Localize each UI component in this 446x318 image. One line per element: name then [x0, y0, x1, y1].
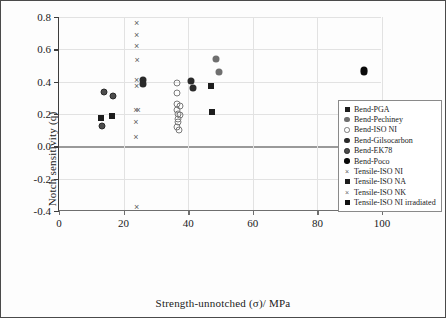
data-point	[188, 77, 195, 84]
gridline-horizontal	[59, 114, 381, 115]
data-point: ×	[133, 82, 141, 90]
chart-legend[interactable]: Bend-PGABend-PechineyBend-ISO NIBend-Gil…	[338, 100, 442, 212]
legend-item-label: Bend-PGA	[354, 105, 390, 114]
legend-item-label: Tensile-ISO NI irradiated	[354, 198, 436, 207]
data-point: ×	[133, 56, 141, 64]
x-tick-label: 80	[312, 217, 323, 229]
legend-marker-icon	[342, 127, 352, 133]
legend-item-tensile-iso-nk[interactable]: ×Tensile-ISO NK	[342, 187, 439, 197]
data-point	[98, 115, 104, 121]
legend-marker-icon	[342, 148, 352, 154]
legend-marker-icon	[342, 107, 352, 112]
y-tick-label: 0.0	[37, 140, 51, 152]
figure-container: Notch sensitivity (q) Strength-unnotched…	[0, 0, 446, 318]
data-point	[98, 123, 105, 130]
data-point	[190, 85, 197, 92]
data-point: ×	[133, 203, 141, 211]
legend-item-tensile-iso-na[interactable]: Tensile-ISO NA	[342, 177, 439, 187]
data-point	[209, 109, 215, 115]
gridline-vertical	[317, 17, 318, 210]
legend-item-tensile-iso-ni-irradiated[interactable]: Tensile-ISO NI irradiated	[342, 198, 439, 208]
data-point: ×	[133, 31, 141, 39]
y-tick-mark	[54, 17, 59, 18]
y-tick-label: 0.8	[37, 11, 51, 23]
legend-marker-icon	[342, 138, 352, 144]
x-tick-label: 40	[183, 217, 194, 229]
gridline-vertical	[188, 17, 189, 210]
x-tick-label: 0	[56, 217, 62, 229]
x-tick-mark	[59, 210, 60, 215]
data-point: ×	[132, 133, 140, 141]
legend-marker-icon: ×	[342, 168, 352, 175]
legend-item-label: Tensile-ISO NI	[354, 167, 403, 176]
data-point	[208, 83, 214, 89]
y-axis-label: Notch sensitivity (q)	[46, 112, 58, 207]
legend-marker-icon	[342, 158, 352, 164]
x-tick-mark	[124, 210, 125, 215]
y-tick-label: -0.2	[34, 173, 51, 185]
legend-item-label: Bend-Poco	[354, 157, 390, 166]
data-point	[139, 80, 146, 87]
data-point	[110, 92, 117, 99]
data-point: ×	[132, 118, 140, 126]
legend-marker-icon	[342, 179, 352, 184]
x-tick-mark	[253, 210, 254, 215]
gridline-vertical	[253, 17, 254, 210]
x-tick-label: 60	[247, 217, 258, 229]
data-point	[109, 113, 115, 119]
y-tick-mark	[54, 49, 59, 50]
x-tick-label: 20	[118, 217, 129, 229]
legend-item-label: Bend-EK78	[354, 146, 392, 155]
legend-item-bend-pga[interactable]: Bend-PGA	[342, 104, 439, 114]
x-tick-mark	[188, 210, 189, 215]
legend-item-bend-iso-ni[interactable]: Bend-ISO NI	[342, 125, 439, 135]
data-point	[173, 80, 180, 87]
legend-item-label: Bend-Gilsocarbon	[354, 136, 413, 145]
legend-marker-icon	[342, 117, 352, 123]
y-tick-mark	[54, 114, 59, 115]
y-tick-label: 0.2	[37, 108, 51, 120]
legend-item-label: Tensile-ISO NK	[354, 188, 406, 197]
data-point: ×	[133, 19, 141, 27]
legend-item-label: Bend-Pechiney	[354, 115, 403, 124]
data-point	[212, 56, 219, 63]
x-tick-label: 100	[374, 217, 391, 229]
gridline-horizontal	[59, 146, 381, 147]
legend-item-bend-pechiney[interactable]: Bend-Pechiney	[342, 114, 439, 124]
data-point: ×	[133, 42, 141, 50]
y-tick-label: -0.4	[34, 205, 51, 217]
legend-marker-icon: ×	[342, 189, 352, 196]
gridline-horizontal	[59, 49, 381, 50]
data-point	[361, 68, 368, 75]
x-tick-mark	[317, 210, 318, 215]
y-tick-label: 0.4	[37, 76, 51, 88]
gridline-vertical	[124, 17, 125, 210]
x-axis-label: Strength-unnotched (σ)/ MPa	[1, 297, 445, 309]
legend-item-label: Bend-ISO NI	[354, 125, 397, 134]
data-point: ×	[134, 106, 142, 114]
y-tick-mark	[54, 82, 59, 83]
data-point	[215, 68, 222, 75]
legend-item-label: Tensile-ISO NA	[354, 177, 406, 186]
y-tick-mark	[54, 146, 59, 147]
data-point	[173, 89, 180, 96]
legend-item-tensile-iso-ni[interactable]: ×Tensile-ISO NI	[342, 166, 439, 176]
legend-item-bend-gilsocarbon[interactable]: Bend-Gilsocarbon	[342, 135, 439, 145]
gridline-horizontal	[59, 179, 381, 180]
plot-area: 0.80.60.40.20.0-0.2-0.4 020406080100 ×××…	[58, 17, 381, 211]
legend-item-bend-poco[interactable]: Bend-Poco	[342, 156, 439, 166]
legend-item-bend-ek78[interactable]: Bend-EK78	[342, 146, 439, 156]
y-tick-label: 0.6	[37, 43, 51, 55]
y-tick-mark	[54, 179, 59, 180]
gridline-horizontal	[59, 82, 381, 83]
data-point	[176, 127, 183, 134]
gridline-horizontal	[59, 17, 381, 18]
legend-marker-icon	[342, 200, 352, 205]
data-point	[101, 88, 108, 95]
